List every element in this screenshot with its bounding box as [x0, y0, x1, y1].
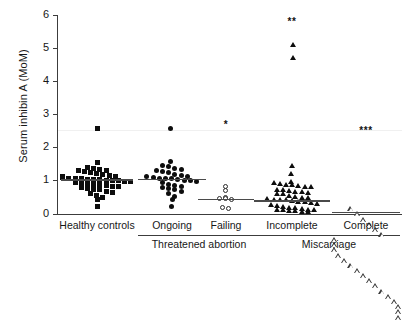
data-point	[305, 190, 311, 195]
data-point	[360, 273, 366, 278]
data-point	[226, 206, 231, 211]
data-point	[395, 315, 401, 320]
data-point	[154, 168, 159, 173]
y-tick	[53, 147, 57, 148]
data-point	[166, 164, 171, 169]
data-point	[104, 183, 109, 188]
data-point	[373, 283, 379, 288]
y-tick-label: 0	[31, 207, 49, 219]
data-point	[271, 180, 277, 185]
data-point	[94, 171, 99, 176]
y-tick	[53, 180, 57, 181]
data-point	[179, 184, 184, 189]
data-point	[288, 171, 294, 176]
significance-marker: ***	[354, 126, 378, 136]
y-tick	[53, 114, 57, 115]
data-point	[172, 187, 177, 192]
data-point	[97, 187, 102, 192]
data-point	[283, 182, 289, 187]
y-tick-label: 5	[31, 41, 49, 53]
data-point	[274, 207, 280, 212]
data-point	[179, 167, 184, 172]
y-tick	[53, 81, 57, 82]
data-point	[166, 170, 171, 175]
data-point	[169, 204, 174, 209]
data-point	[88, 170, 93, 175]
significance-marker: **	[280, 17, 304, 27]
data-point	[223, 188, 228, 193]
data-point	[289, 182, 295, 187]
y-tick	[53, 48, 57, 49]
median-line	[198, 199, 254, 200]
data-point	[311, 207, 317, 212]
data-point	[95, 197, 100, 202]
data-point	[395, 304, 401, 309]
y-tick-label: 4	[31, 74, 49, 86]
significance-marker: *	[214, 120, 238, 130]
data-point	[91, 182, 96, 187]
median-line	[254, 200, 330, 201]
data-point	[308, 184, 314, 189]
y-tick	[53, 214, 57, 215]
data-point	[82, 169, 87, 174]
data-point	[302, 184, 308, 189]
data-point	[76, 168, 81, 173]
data-point	[395, 309, 401, 314]
data-point	[290, 55, 296, 60]
data-point	[100, 172, 105, 177]
data-point	[166, 186, 171, 191]
y-tick-label: 2	[31, 140, 49, 152]
data-point	[305, 209, 311, 214]
group-label-miscarriage: Miscarriage	[259, 238, 399, 250]
data-point	[85, 186, 90, 191]
data-point	[79, 185, 84, 190]
data-point	[299, 209, 305, 214]
data-point	[95, 160, 100, 165]
data-point	[179, 189, 184, 194]
data-point	[160, 163, 165, 168]
median-line	[138, 179, 206, 180]
data-point	[166, 191, 171, 196]
median-line	[61, 179, 133, 180]
data-point	[95, 204, 100, 209]
data-point	[160, 185, 165, 190]
y-tick	[53, 15, 57, 16]
data-point	[220, 205, 225, 210]
data-point	[172, 166, 177, 171]
data-point	[97, 182, 102, 187]
plot-layer: 0123456******Healthy controlsOngoingFail…	[0, 0, 410, 110]
data-point	[160, 169, 165, 174]
data-point	[280, 191, 286, 196]
data-point	[104, 189, 109, 194]
data-point	[290, 42, 296, 47]
data-point	[88, 191, 93, 196]
data-point	[299, 189, 305, 194]
guide-line	[57, 130, 402, 131]
data-point	[292, 208, 298, 213]
data-point	[268, 202, 274, 207]
data-point	[385, 294, 391, 299]
x-axis-line	[57, 214, 402, 215]
data-point	[110, 190, 115, 195]
data-point	[342, 258, 348, 263]
data-point	[348, 206, 354, 211]
data-point	[295, 183, 301, 188]
y-axis-title: Serum inhibin A (MoM)	[17, 21, 29, 191]
data-point	[274, 191, 280, 196]
data-point	[100, 195, 105, 200]
group-rule	[138, 235, 260, 236]
data-point	[280, 207, 286, 212]
data-point	[286, 208, 292, 213]
data-point	[277, 181, 283, 186]
data-point	[292, 189, 298, 194]
data-point	[116, 184, 121, 189]
y-tick-label: 1	[31, 173, 49, 185]
median-line	[332, 212, 400, 213]
y-tick-label: 6	[31, 8, 49, 20]
group-label-threatened-abortion: Threatened abortion	[129, 238, 269, 250]
y-tick-label: 3	[31, 107, 49, 119]
data-point	[170, 197, 175, 202]
data-point	[110, 184, 115, 189]
data-point	[289, 163, 295, 168]
